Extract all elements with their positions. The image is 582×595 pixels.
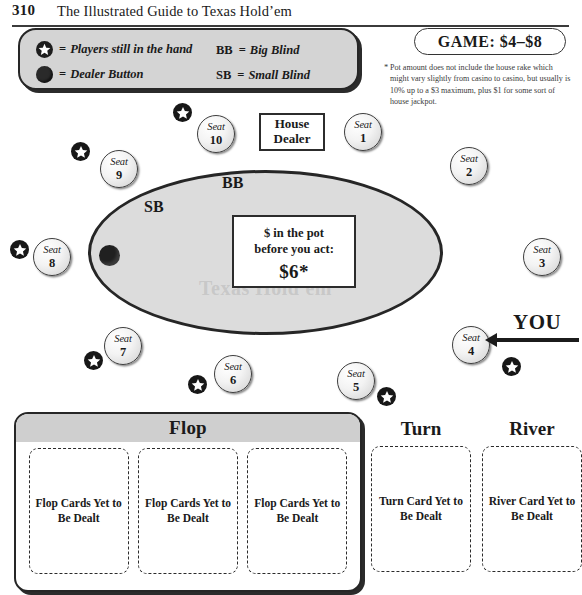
flop-card-slot-1[interactable]: Flop Cards Yet to Be Dealt — [29, 448, 129, 574]
seat-word-label: Seat — [347, 369, 364, 380]
legend-label-bb: Big Blind — [250, 43, 300, 58]
flop-panel: Flop Flop Cards Yet to Be Dealt Flop Car… — [14, 412, 362, 592]
river-column: River River Card Yet to Be Dealt — [482, 415, 582, 572]
river-card-slot-label: River Card Yet to Be Dealt — [483, 494, 581, 524]
footnote-marker: * — [384, 62, 388, 72]
player-in-hand-star-icon — [84, 351, 103, 370]
seat-word-label: Seat — [224, 362, 241, 373]
seat-word-label: Seat — [460, 154, 477, 165]
player-in-hand-star-icon — [71, 142, 90, 161]
legend-row-players: = Players still in the hand — [36, 40, 192, 58]
seat-word-label: Seat — [354, 120, 371, 131]
turn-column: Turn Turn Card Yet to Be Dealt — [371, 415, 471, 572]
you-arrow-head-icon — [485, 333, 497, 347]
pot-info-box: $ in the pot before you act: $6* — [232, 215, 356, 288]
legend-equals-dealer: = — [59, 67, 66, 82]
legend-box: = Players still in the hand = Dealer But… — [18, 28, 359, 90]
flop-header: Flop — [16, 414, 360, 442]
pot-line-1: $ in the pot — [234, 225, 354, 241]
seat-word-label: Seat — [43, 245, 60, 256]
legend-label-players: Players still in the hand — [70, 42, 192, 57]
pot-amount: $6* — [234, 261, 354, 283]
page-number: 310 — [12, 2, 35, 19]
flop-card-slot-2-label: Flop Cards Yet to Be Dealt — [139, 496, 237, 526]
seat-word-label: Seat — [114, 334, 131, 345]
house-dealer-line-2: Dealer — [274, 132, 311, 147]
seat-3[interactable]: Seat3 — [523, 238, 561, 276]
turn-card-slot[interactable]: Turn Card Yet to Be Dealt — [371, 446, 471, 572]
seat-number-label: 10 — [210, 134, 223, 147]
seat-1[interactable]: Seat1 — [344, 113, 382, 151]
seat-5[interactable]: Seat5 — [337, 362, 375, 400]
seat-number-label: 3 — [539, 257, 545, 270]
legend-code-sb: SB — [216, 68, 231, 83]
seat-number-label: 7 — [120, 346, 126, 359]
seat-6[interactable]: Seat6 — [214, 355, 252, 393]
seat-number-label: 4 — [468, 345, 474, 358]
legend-row-big-blind: BB = Big Blind — [216, 41, 299, 59]
seat-2[interactable]: Seat2 — [450, 147, 488, 185]
seat-8[interactable]: Seat8 — [33, 238, 71, 276]
legend-row-dealer: = Dealer Button — [36, 65, 143, 83]
flop-card-slot-1-label: Flop Cards Yet to Be Dealt — [30, 496, 128, 526]
seat-word-label: Seat — [110, 157, 127, 168]
legend-label-sb: Small Blind — [248, 68, 309, 83]
seat-number-label: 6 — [230, 374, 236, 387]
seat-number-label: 9 — [116, 169, 122, 182]
you-label: YOU — [513, 310, 561, 335]
player-in-hand-star-icon — [188, 375, 207, 394]
player-in-hand-star-icon — [502, 357, 521, 376]
legend-equals-sb: = — [237, 68, 244, 83]
seat-number-label: 8 — [49, 257, 55, 270]
river-card-slot[interactable]: River Card Yet to Be Dealt — [482, 446, 582, 572]
dealer-button-icon — [36, 66, 53, 83]
running-head: 310 The Illustrated Guide to Texas Hold’… — [0, 0, 581, 30]
river-header-label: River — [482, 415, 582, 442]
seat-9[interactable]: Seat9 — [100, 150, 138, 188]
seat-number-label: 1 — [360, 132, 366, 145]
game-stakes-label: GAME: $4–$8 — [438, 33, 543, 51]
house-dealer-box: House Dealer — [259, 113, 325, 151]
legend-code-bb: BB — [216, 43, 233, 58]
turn-card-slot-label: Turn Card Yet to Be Dealt — [372, 494, 470, 524]
legend-row-small-blind: SB = Small Blind — [216, 66, 310, 84]
house-dealer-line-1: House — [275, 117, 310, 132]
seat-10[interactable]: Seat10 — [197, 115, 235, 153]
legend-equals-bb: = — [239, 43, 246, 58]
legend-label-dealer: Dealer Button — [70, 67, 143, 82]
player-in-hand-star-icon — [173, 103, 192, 122]
player-in-hand-star-icon — [10, 240, 29, 259]
seat-word-label: Seat — [533, 245, 550, 256]
flop-card-slots: Flop Cards Yet to Be Dealt Flop Cards Ye… — [16, 442, 360, 574]
pot-line-2: before you act: — [234, 241, 354, 257]
flop-card-slot-2[interactable]: Flop Cards Yet to Be Dealt — [138, 448, 238, 574]
game-stakes-banner: GAME: $4–$8 — [414, 28, 566, 55]
flop-card-slot-3-label: Flop Cards Yet to Be Dealt — [248, 496, 346, 526]
seat-word-label: Seat — [462, 333, 479, 344]
seat-word-label: Seat — [207, 122, 224, 133]
book-title: The Illustrated Guide to Texas Hold’em — [57, 3, 292, 20]
header-divider — [12, 25, 569, 27]
star-icon — [36, 41, 53, 58]
flop-card-slot-3[interactable]: Flop Cards Yet to Be Dealt — [247, 448, 347, 574]
footnote-text: Pot amount does not include the house ra… — [390, 62, 572, 108]
small-blind-marker: SB — [144, 198, 164, 216]
seat-7[interactable]: Seat7 — [104, 327, 142, 365]
legend-equals-players: = — [59, 42, 66, 57]
turn-header-label: Turn — [371, 415, 471, 442]
big-blind-marker: BB — [222, 174, 243, 192]
seat-number-label: 2 — [466, 166, 472, 179]
dealer-button-marker — [99, 245, 120, 266]
player-in-hand-star-icon — [377, 387, 396, 406]
flop-header-label: Flop — [169, 417, 207, 439]
you-arrow-shaft — [495, 338, 579, 342]
seat-number-label: 5 — [353, 381, 359, 394]
